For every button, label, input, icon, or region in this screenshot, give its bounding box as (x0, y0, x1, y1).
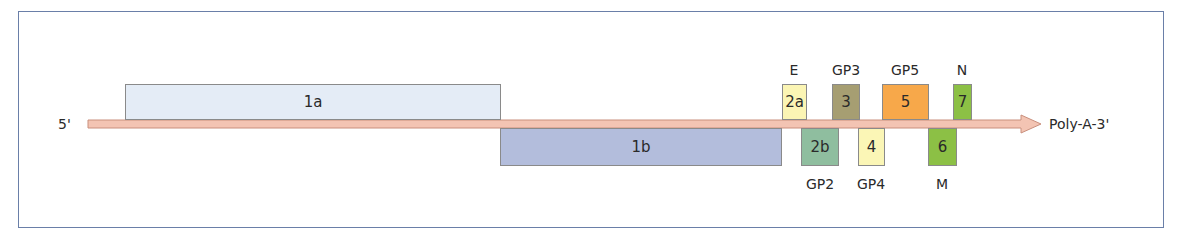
orf-2a: 2a (782, 84, 807, 120)
orf-label: 1b (631, 138, 650, 156)
orf-label: 2b (810, 138, 829, 156)
orf-label: 7 (958, 93, 968, 111)
orf-label: 3 (841, 93, 851, 111)
orf-label: 6 (938, 138, 948, 156)
orf-2b: 2b (801, 128, 839, 166)
protein-label-m: M (917, 176, 967, 192)
orf-7: 7 (953, 84, 972, 120)
protein-label-gp4: GP4 (846, 176, 896, 192)
orf-4: 4 (858, 128, 885, 166)
orf-6: 6 (928, 128, 957, 166)
five-prime-label: 5' (58, 116, 71, 132)
orf-5: 5 (882, 84, 929, 120)
protein-label-n: N (937, 62, 987, 78)
protein-label-gp5: GP5 (880, 62, 930, 78)
orf-label: 4 (867, 138, 877, 156)
orf-1b: 1b (500, 128, 782, 166)
orf-1a: 1a (125, 84, 501, 120)
protein-label-e: E (769, 62, 819, 78)
orf-3: 3 (832, 84, 860, 120)
three-prime-label: Poly-A-3' (1049, 116, 1109, 132)
orf-label: 2a (785, 93, 804, 111)
orf-label: 1a (304, 93, 323, 111)
protein-label-gp3: GP3 (821, 62, 871, 78)
orf-label: 5 (901, 93, 911, 111)
protein-label-gp2: GP2 (795, 176, 845, 192)
